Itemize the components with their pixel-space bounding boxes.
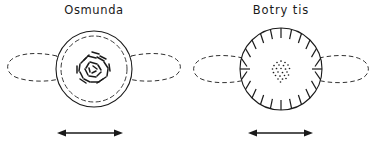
specimen-panel-osmunda: Osmunda	[0, 0, 188, 142]
specimen-drawing-botrytis	[187, 18, 375, 118]
specimen-label-botrytis: Botry tis	[187, 3, 375, 17]
specimen-drawing-osmunda	[0, 18, 188, 118]
right-lobe-botrytis	[317, 56, 368, 83]
figure-panel: Osmunda	[0, 0, 375, 142]
right-lobe-osmunda	[129, 54, 180, 82]
outer-circle-osmunda	[56, 31, 132, 107]
specimen-label-osmunda: Osmunda	[0, 3, 188, 17]
left-lobe-osmunda	[8, 54, 59, 82]
left-lobe-botrytis	[194, 56, 245, 83]
scale-bar-arrowhead-right-botrytis	[304, 130, 313, 137]
scale-bar-osmunda	[0, 118, 188, 142]
scale-bar-arrowhead-right-osmunda	[114, 130, 123, 137]
scale-bar-botrytis	[187, 118, 375, 142]
specimen-panel-botrytis: Botry tis	[187, 0, 375, 142]
scale-bar-arrowhead-left-botrytis	[248, 130, 257, 137]
scale-bar-arrowhead-left-osmunda	[57, 130, 66, 137]
